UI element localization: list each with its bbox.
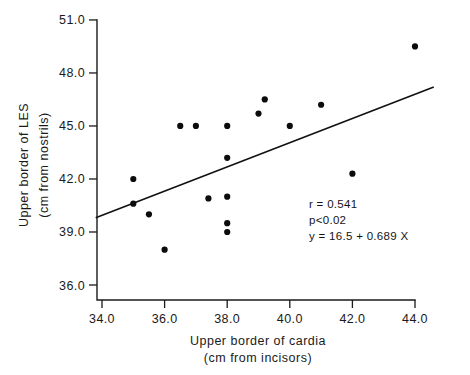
y-axis-ticks: 36.039.042.045.048.051.0 [59, 13, 97, 292]
x-tick-label: 38.0 [214, 312, 240, 326]
x-tick-label: 44.0 [402, 312, 428, 326]
data-point [287, 123, 293, 129]
data-point [318, 102, 324, 108]
x-tick-label: 34.0 [89, 312, 115, 326]
axis-frame [97, 20, 415, 300]
data-point [177, 123, 183, 129]
correlation-annotation: r = 0.541 [309, 198, 357, 210]
axes-group [97, 20, 415, 300]
equation-annotation: y = 16.5 + 0.689 X [309, 230, 408, 242]
x-tick-label: 36.0 [152, 312, 178, 326]
data-point [205, 195, 211, 201]
data-point [262, 96, 268, 102]
data-point [146, 211, 152, 217]
y-tick-label: 42.0 [59, 172, 85, 186]
y-axis-units: (cm from nostrils) [37, 112, 51, 218]
data-point [224, 123, 230, 129]
regression-line-group [96, 87, 434, 218]
plot-canvas: 36.039.042.045.048.051.0 34.036.038.040.… [0, 0, 470, 375]
data-point [224, 194, 230, 200]
data-point [412, 43, 418, 49]
y-tick-label: 36.0 [59, 279, 85, 293]
data-point [162, 247, 168, 253]
y-tick-label: 51.0 [59, 13, 85, 27]
stats-annotation-group: r = 0.541 p<0.02 y = 16.5 + 0.689 X [309, 198, 408, 242]
y-axis-title-group: Upper border of LES (cm from nostrils) [17, 103, 51, 227]
regression-line [96, 87, 434, 218]
y-axis-title: Upper border of LES [17, 103, 31, 227]
caption-strip [0, 363, 470, 375]
x-axis-title: Upper border of cardia [190, 334, 326, 348]
pvalue-annotation: p<0.02 [309, 214, 346, 226]
data-point [193, 123, 199, 129]
data-point [224, 220, 230, 226]
data-point [349, 171, 355, 177]
y-tick-label: 39.0 [59, 225, 85, 239]
data-point [130, 201, 136, 207]
scatter-plot-figure: 36.039.042.045.048.051.0 34.036.038.040.… [0, 0, 470, 375]
x-axis-ticks: 34.036.038.040.042.044.0 [89, 300, 428, 326]
y-tick-label: 48.0 [59, 66, 85, 80]
data-point [224, 229, 230, 235]
x-tick-label: 40.0 [277, 312, 303, 326]
data-point [130, 176, 136, 182]
y-tick-label: 45.0 [59, 119, 85, 133]
data-point [224, 155, 230, 161]
x-tick-label: 42.0 [339, 312, 365, 326]
x-axis-title-group: Upper border of cardia (cm from incisors… [190, 334, 326, 365]
data-point [255, 111, 261, 117]
